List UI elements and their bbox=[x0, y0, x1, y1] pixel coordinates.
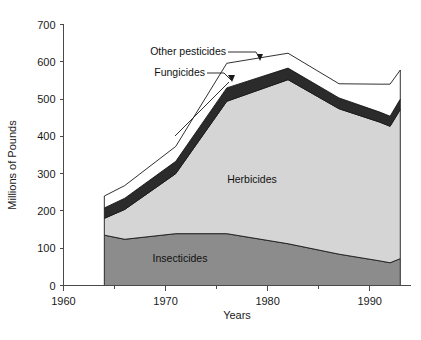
x-tick-label: 1980 bbox=[255, 295, 279, 307]
x-axis-title: Years bbox=[223, 309, 251, 321]
x-tick-label: 1990 bbox=[357, 295, 381, 307]
y-tick-label: 100 bbox=[37, 242, 55, 254]
y-tick-label: 0 bbox=[49, 280, 55, 292]
series-label-insecticides: Insecticides bbox=[153, 252, 208, 264]
x-tick-label: 1970 bbox=[153, 295, 177, 307]
y-tick-label: 500 bbox=[37, 93, 55, 105]
chart-figure: 0100200300400500600700 1960197019801990 … bbox=[0, 0, 421, 340]
y-axis-title: Millions of Pounds bbox=[6, 120, 18, 210]
y-tick-label: 700 bbox=[37, 19, 55, 31]
callout-fungicides: Fungicides bbox=[154, 66, 205, 78]
y-tick-label: 600 bbox=[37, 56, 55, 68]
y-tick-label: 200 bbox=[37, 205, 55, 217]
stacked-area-chart: 0100200300400500600700 1960197019801990 … bbox=[0, 0, 421, 340]
y-tick-label: 400 bbox=[37, 130, 55, 142]
series-label-herbicides: Herbicides bbox=[227, 173, 277, 185]
y-tick-label: 300 bbox=[37, 168, 55, 180]
x-tick-label: 1960 bbox=[51, 295, 75, 307]
callout-other-pesticides: Other pesticides bbox=[150, 45, 226, 57]
